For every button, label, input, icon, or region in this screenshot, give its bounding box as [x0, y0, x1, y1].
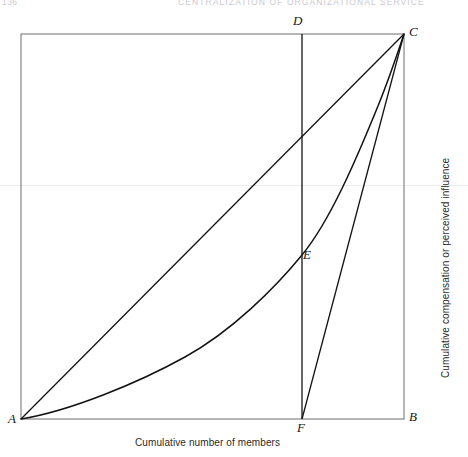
- figure-svg: [0, 0, 468, 457]
- x-axis-label: Cumulative number of members: [135, 437, 280, 448]
- point-label-a: A: [8, 412, 16, 425]
- point-label-b: B: [409, 410, 417, 423]
- point-label-e: E: [303, 248, 311, 261]
- point-label-d: D: [293, 14, 302, 27]
- y-axis-label: Cumulative compensation or perceived inf…: [440, 158, 451, 378]
- chord-line-FC: [302, 34, 404, 419]
- point-label-f: F: [297, 421, 305, 434]
- lorenz-curve-figure: A B C D E F Cumulative number of members…: [0, 0, 468, 457]
- figure-page: 136 CENTRALIZATION OF ORGANIZATIONAL SER…: [0, 0, 468, 457]
- point-label-c: C: [409, 25, 418, 38]
- line-of-equality-AC: [21, 34, 404, 419]
